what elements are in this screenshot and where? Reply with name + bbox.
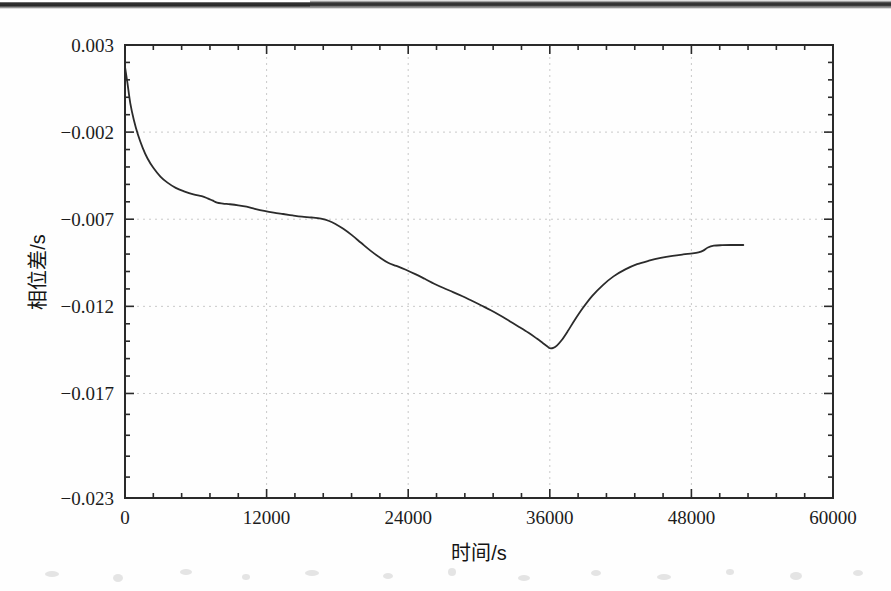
y-tick-label: 0.003 (71, 35, 114, 56)
chart-svg: 012000240003600048000600000.003−0.002−0.… (0, 0, 891, 591)
x-tick-label: 48000 (668, 507, 716, 528)
x-tick-label: 24000 (384, 507, 432, 528)
chart-gridlines (125, 45, 833, 498)
y-tick-label: −0.012 (61, 296, 114, 317)
chart-axis-labels: 012000240003600048000600000.003−0.002−0.… (61, 35, 857, 528)
x-axis-title: 时间/s (451, 542, 507, 564)
y-tick-label: −0.023 (61, 488, 114, 509)
x-tick-label: 12000 (243, 507, 291, 528)
x-tick-label: 60000 (809, 507, 857, 528)
data-series-line (125, 67, 743, 348)
chart-tickmarks (125, 45, 833, 498)
phase-difference-chart: 012000240003600048000600000.003−0.002−0.… (0, 0, 891, 591)
chart-plot-frame (125, 45, 833, 498)
y-axis-title: 相位差/s (27, 234, 49, 310)
y-tick-label: −0.007 (61, 209, 114, 230)
x-tick-label: 0 (120, 507, 130, 528)
x-tick-label: 36000 (526, 507, 574, 528)
page-canvas: 012000240003600048000600000.003−0.002−0.… (0, 0, 891, 591)
y-tick-label: −0.017 (61, 383, 114, 404)
y-tick-label: −0.002 (61, 122, 114, 143)
